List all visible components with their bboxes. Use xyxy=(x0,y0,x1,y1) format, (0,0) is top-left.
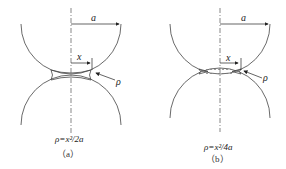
radius-label: a xyxy=(241,12,246,23)
panel-caption: （b） xyxy=(206,154,229,164)
x-label: x xyxy=(76,51,82,62)
panel-caption: （a） xyxy=(57,149,79,159)
rho-label: ρ xyxy=(262,72,268,83)
neck-formula: ρ=x²/4a xyxy=(203,142,233,152)
rho-pointer xyxy=(96,73,115,80)
x-label: x xyxy=(225,52,231,63)
neck-formula: ρ=x²/2a xyxy=(54,134,84,144)
particle-neck-diagram: a x ρ ρ=x²/2a （a） a x ρ ρ=x²/4a （b） xyxy=(0,0,286,169)
panel-a: a x ρ ρ=x²/2a （a） xyxy=(21,8,121,159)
radius-label: a xyxy=(91,12,96,23)
rho-label: ρ xyxy=(115,76,121,87)
rho-pointer xyxy=(244,71,262,78)
panel-b: a x ρ ρ=x²/4a （b） xyxy=(170,8,270,164)
